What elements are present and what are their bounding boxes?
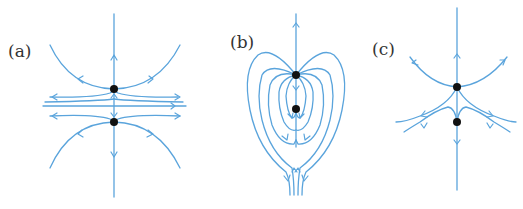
phase-portraits <box>0 0 523 209</box>
fixed-point-a-upper <box>110 85 118 93</box>
fixed-point-c-lower <box>453 118 461 126</box>
figure-canvas: (a) (b) (c) <box>0 0 523 209</box>
panel-c <box>396 8 516 190</box>
panel-b <box>247 14 344 195</box>
fixed-point-a-lower <box>110 118 118 126</box>
panel-a <box>43 14 186 197</box>
fixed-point-b-lower <box>292 105 300 113</box>
fixed-point-c-upper <box>453 83 461 91</box>
fixed-point-b-upper <box>292 71 300 79</box>
